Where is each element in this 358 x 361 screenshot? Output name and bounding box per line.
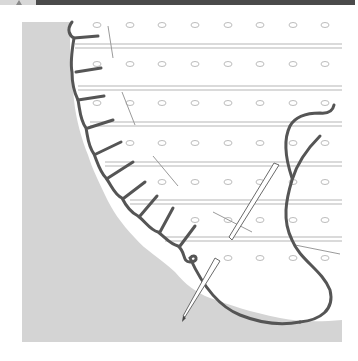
sewing-illustration xyxy=(0,0,358,361)
